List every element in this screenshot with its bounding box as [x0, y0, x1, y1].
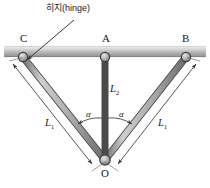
angle-label-alpha-right: α [119, 110, 124, 119]
member-bo [105, 57, 186, 160]
length-label-l1-right: L1 [158, 118, 167, 131]
point-label-b: B [182, 33, 189, 44]
point-label-c: C [20, 33, 27, 44]
point-label-a: A [102, 33, 110, 44]
angle-label-alpha-left: α [86, 110, 91, 119]
hinge-truss-figure: 히지(hinge) C A B O L1 L2 L1 α α [0, 0, 210, 188]
member-co [23, 57, 105, 160]
length-label-l2: L2 [110, 84, 119, 97]
diagram-canvas [0, 0, 210, 188]
length-label-l1-left: L1 [45, 118, 54, 131]
hinge-joint-a [100, 52, 109, 61]
length-label-l1-left-sub: 1 [51, 123, 55, 131]
length-label-l2-sub: 2 [116, 89, 120, 97]
hinge-joint-b [181, 52, 190, 61]
point-label-o: O [101, 168, 109, 179]
hinge-joint-o [100, 155, 110, 165]
hinge-joint-c [18, 52, 27, 61]
hinge-callout-label: 히지(hinge) [46, 4, 90, 13]
length-label-l1-right-sub: 1 [164, 123, 168, 131]
